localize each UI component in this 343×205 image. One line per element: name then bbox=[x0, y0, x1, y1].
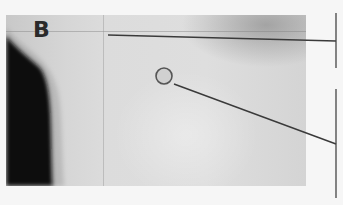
lower-leader-line bbox=[174, 84, 336, 144]
circle-marker bbox=[156, 68, 172, 84]
annotation-overlay bbox=[0, 0, 343, 205]
upper-leader-line bbox=[108, 35, 336, 41]
